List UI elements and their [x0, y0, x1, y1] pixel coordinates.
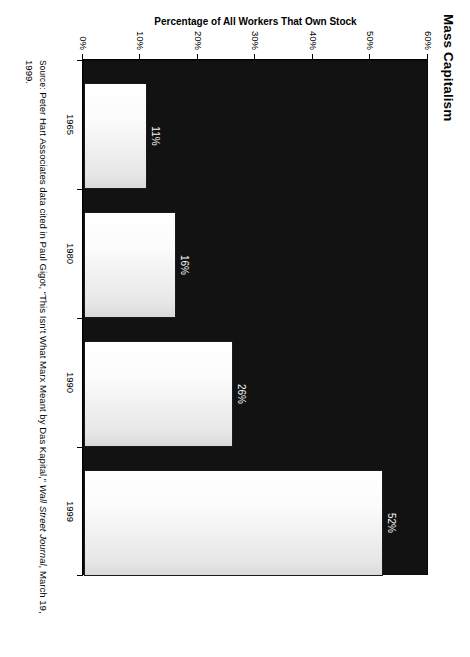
y-tick-label-20: 20%	[193, 4, 203, 50]
bar-label-1980: 16%	[179, 235, 190, 295]
y-tick-label-50: 50%	[366, 4, 376, 50]
x-tick-2	[77, 318, 82, 319]
y-tick-30	[255, 54, 256, 60]
y-axis-title: Percentage of All Workers That Own Stock	[83, 16, 428, 27]
y-tick-label-60: 60%	[423, 4, 433, 50]
bar-chart-figure: Mass Capitalism 11% 16% 26% 52% 60% 50%	[0, 0, 470, 657]
y-tick-20	[197, 54, 198, 60]
source-note: Source: Peter Hart Associates data cited…	[23, 60, 50, 635]
x-tick-3	[77, 447, 82, 448]
y-tick-10	[140, 54, 141, 60]
bar-1980	[84, 212, 176, 318]
y-tick-label-40: 40%	[308, 4, 318, 50]
bar-label-1999: 52%	[386, 493, 397, 553]
x-category-label-1965: 1965	[65, 90, 76, 160]
x-tick-1	[77, 189, 82, 190]
source-label: Source:	[38, 60, 47, 90]
y-tick-label-10: 10%	[136, 4, 146, 50]
bar-label-1990: 26%	[236, 364, 247, 424]
bar-1999	[84, 470, 383, 576]
plot-area: 11% 16% 26% 52%	[83, 60, 428, 575]
x-tick-start	[77, 60, 82, 61]
plot-wrapper: 11% 16% 26% 52%	[83, 60, 428, 575]
x-category-label-1990: 1990	[65, 348, 76, 418]
x-tick-end	[77, 575, 82, 576]
source-publication: Wall Street Journal	[38, 485, 49, 566]
y-tick-50	[370, 54, 371, 60]
chart-title: Mass Capitalism	[441, 14, 456, 121]
y-tick-60	[427, 54, 428, 60]
rotated-figure-canvas: Mass Capitalism 11% 16% 26% 52% 60% 50%	[0, 0, 470, 657]
bar-1965	[84, 83, 147, 189]
bar-label-1965: 11%	[150, 106, 161, 166]
bar-1990	[84, 341, 234, 447]
y-tick-label-0: 0%	[78, 4, 88, 50]
source-text-part1: Peter Hart Associates data cited in Paul…	[38, 90, 49, 485]
y-tick-label-30: 30%	[251, 4, 261, 50]
x-category-label-1980: 1980	[65, 219, 76, 289]
y-tick-40	[312, 54, 313, 60]
x-category-label-1999: 1999	[65, 477, 76, 547]
x-axis-line	[82, 59, 83, 576]
y-tick-0	[82, 54, 83, 60]
